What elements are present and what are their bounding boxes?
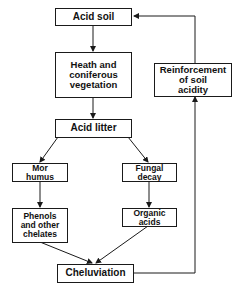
line-cheluviation-to-reinforcement — [133, 240, 195, 273]
node-cheluviation: Cheluviation — [57, 264, 134, 283]
node-acid-soil: Acid soil — [55, 8, 132, 26]
arrow-litter-to-fungal — [128, 137, 148, 162]
arrow-reinforcement-to-acid-soil — [134, 16, 195, 63]
node-fungal-decay: Fungal decay — [122, 163, 177, 182]
arrow-organic-to-cheluviation — [96, 226, 148, 263]
node-acid-litter: Acid litter — [55, 119, 132, 138]
node-organic-acids: Organic acids — [122, 208, 177, 227]
node-reinforcement-acidity: Reinforcement of soil acidity — [154, 63, 232, 97]
node-mor-humus: Mor humus — [12, 163, 68, 182]
connector-lines — [0, 0, 241, 297]
arrow-litter-to-mor — [40, 137, 58, 162]
node-heath-vegetation: Heath and coniferous vegetation — [55, 52, 132, 98]
arrow-phenols-to-cheluviation — [40, 242, 92, 263]
node-phenols-chelates: Phenols and other chelates — [12, 208, 68, 243]
